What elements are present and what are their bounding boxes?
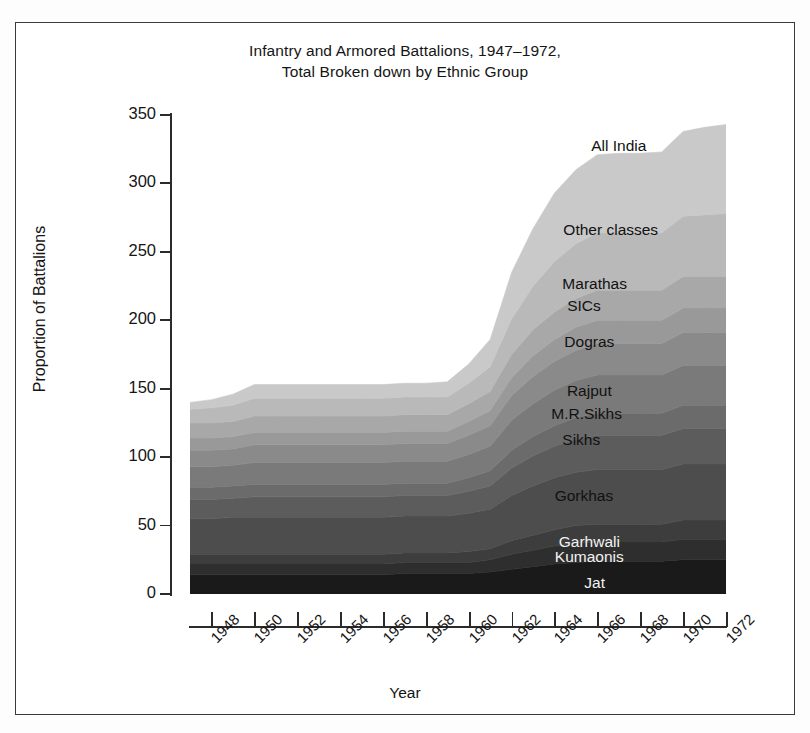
- x-tick: [726, 612, 728, 627]
- x-tick: [512, 612, 514, 627]
- x-tick: [297, 612, 299, 627]
- x-tick: [426, 612, 428, 627]
- x-tick: [597, 612, 599, 627]
- y-tick: [160, 456, 171, 458]
- x-tick: [683, 612, 685, 627]
- x-tick: [340, 612, 342, 627]
- chart-title-line1: Infantry and Armored Battalions, 1947–19…: [0, 40, 810, 61]
- y-tick-label: 200: [76, 309, 156, 328]
- y-tick: [160, 525, 171, 527]
- y-tick-label: 100: [76, 446, 156, 465]
- chart-title: Infantry and Armored Battalions, 1947–19…: [0, 40, 810, 82]
- x-tick: [254, 612, 256, 627]
- y-tick: [160, 251, 171, 253]
- y-tick-label: 0: [76, 583, 156, 602]
- y-tick-label: 150: [76, 378, 156, 397]
- x-tick: [640, 612, 642, 627]
- x-tick: [211, 612, 213, 627]
- y-tick-label: 50: [76, 515, 156, 534]
- figure-page: Infantry and Armored Battalions, 1947–19…: [0, 0, 810, 733]
- y-axis-title: Proportion of Battalions: [31, 99, 49, 519]
- y-tick: [160, 319, 171, 321]
- y-tick: [160, 114, 171, 116]
- y-tick: [160, 388, 171, 390]
- y-tick-label: 250: [76, 241, 156, 260]
- y-tick-label: 300: [76, 172, 156, 191]
- y-axis-line: [170, 113, 172, 596]
- chart-title-line2: Total Broken down by Ethnic Group: [0, 61, 810, 82]
- stacked-area-chart: [190, 115, 726, 594]
- plot-area: All IndiaOther classesMarathasSICsDogras…: [190, 115, 726, 594]
- x-tick: [469, 612, 471, 627]
- y-tick-label: 350: [76, 104, 156, 123]
- x-axis-title: Year: [0, 684, 810, 702]
- x-tick: [554, 612, 556, 627]
- y-tick: [160, 182, 171, 184]
- x-tick: [383, 612, 385, 627]
- y-tick: [160, 593, 171, 595]
